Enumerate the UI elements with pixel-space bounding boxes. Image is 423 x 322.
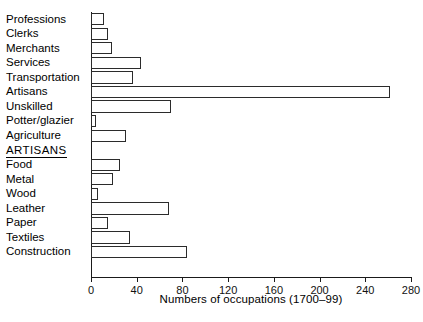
bar-chart-figure: ProfessionsClerksMerchantsServicesTransp… — [0, 0, 423, 322]
category-label-professions: Professions — [6, 13, 86, 25]
category-label-artisans: Artisans — [6, 85, 86, 97]
category-label-potter-glazier: Potter/glazier — [6, 114, 86, 126]
bar-wood — [91, 188, 98, 200]
category-label-transportation: Transportation — [6, 71, 86, 83]
category-label-construction: Construction — [6, 245, 86, 257]
category-label-unskilled: Unskilled — [6, 100, 86, 112]
x-tick-240 — [365, 277, 366, 282]
category-label-merchants: Merchants — [6, 42, 86, 54]
x-tick-40 — [137, 277, 138, 282]
category-label-clerks: Clerks — [6, 27, 86, 39]
x-tick-200 — [320, 277, 321, 282]
bar-food — [91, 159, 120, 171]
bar-potter-glazier — [91, 115, 96, 127]
bar-merchants — [91, 42, 112, 54]
x-tick-160 — [274, 277, 275, 282]
category-label-wood: Wood — [6, 187, 86, 199]
bar-paper — [91, 217, 108, 229]
x-axis-title: Numbers of occupations (1700–99) — [91, 293, 411, 305]
bar-clerks — [91, 28, 108, 40]
category-label-food: Food — [6, 158, 86, 170]
bar-transportation — [91, 71, 133, 83]
category-label-metal: Metal — [6, 173, 86, 185]
artisans-header-text: ARTISANS — [6, 144, 67, 158]
plot-area: 04080120160200240280 — [91, 12, 411, 277]
category-label-leather: Leather — [6, 202, 86, 214]
category-label-column: ProfessionsClerksMerchantsServicesTransp… — [6, 12, 86, 277]
bar-metal — [91, 173, 113, 185]
bar-textiles — [91, 231, 130, 243]
bar-unskilled — [91, 100, 171, 112]
bar-services — [91, 57, 141, 69]
category-label-paper: Paper — [6, 216, 86, 228]
x-tick-280 — [411, 277, 412, 282]
x-tick-0 — [91, 277, 92, 282]
bar-agriculture — [91, 130, 126, 142]
bar-leather — [91, 202, 169, 214]
section-header-artisans: ARTISANS — [6, 144, 86, 156]
x-axis-line — [91, 277, 411, 278]
category-label-services: Services — [6, 56, 86, 68]
category-label-agriculture: Agriculture — [6, 129, 86, 141]
bar-professions — [91, 13, 104, 25]
x-tick-120 — [228, 277, 229, 282]
bar-construction — [91, 246, 187, 258]
x-tick-80 — [182, 277, 183, 282]
category-label-textiles: Textiles — [6, 231, 86, 243]
bar-artisans — [91, 86, 390, 98]
